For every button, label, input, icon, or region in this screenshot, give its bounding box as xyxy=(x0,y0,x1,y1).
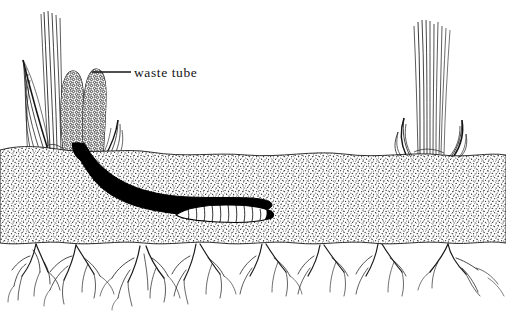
soil-band xyxy=(0,147,506,246)
illustration-canvas: waste tube xyxy=(0,0,506,315)
waste-tube-label: waste tube xyxy=(134,65,197,80)
